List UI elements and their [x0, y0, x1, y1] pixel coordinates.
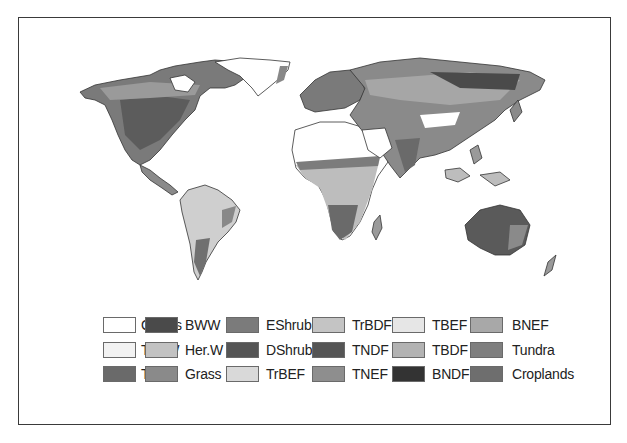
legend-label: DShrub [266, 341, 312, 359]
legend-label: TNEF [352, 365, 388, 383]
legend-label: TrBEF [266, 365, 305, 383]
legend-swatch [470, 366, 503, 382]
legend-label: BWW [185, 316, 220, 334]
legend-swatch [392, 342, 425, 358]
legend-swatch [226, 366, 259, 382]
legend-swatch [103, 317, 136, 333]
legend-label: Tundra [512, 341, 555, 359]
legend-swatch [145, 317, 178, 333]
legend-swatch [470, 342, 503, 358]
legend-label: TrBDF [352, 316, 392, 334]
legend-label: TNDF [352, 341, 389, 359]
legend-swatch [226, 317, 259, 333]
world-vegetation-map [0, 0, 627, 300]
legend-label: BNDF [432, 365, 469, 383]
legend-label: EShrub [266, 316, 312, 334]
legend-swatch [392, 366, 425, 382]
legend-swatch [103, 366, 136, 382]
legend-label: TBDF [432, 341, 468, 359]
legend-label: Croplands [512, 365, 574, 383]
legend-swatch [392, 317, 425, 333]
legend-label: TBEF [432, 316, 467, 334]
legend-swatch [312, 366, 345, 382]
legend-swatch [226, 342, 259, 358]
legend-swatch [312, 342, 345, 358]
legend-swatch [312, 317, 345, 333]
legend-swatch [470, 317, 503, 333]
legend-swatch [145, 342, 178, 358]
legend-swatch [145, 366, 178, 382]
central-america [140, 165, 178, 195]
legend-label: BNEF [512, 316, 549, 334]
legend-swatch [103, 342, 136, 358]
legend-label: Grass [185, 365, 221, 383]
south-america [180, 185, 240, 280]
legend-label: Her.W [185, 341, 223, 359]
